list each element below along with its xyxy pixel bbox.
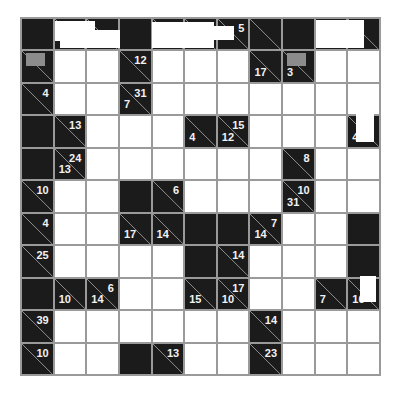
entry-cell[interactable] — [217, 310, 250, 342]
entry-cell[interactable] — [86, 50, 119, 82]
entry-cell[interactable] — [282, 213, 315, 245]
entry-cell[interactable] — [347, 310, 380, 342]
entry-cell[interactable] — [315, 50, 348, 82]
entry-cell[interactable] — [249, 245, 282, 277]
clue-cell: 17 — [249, 50, 282, 82]
down-sum: 17 — [254, 67, 266, 78]
entry-cell[interactable] — [347, 148, 380, 180]
clue-cell: 10 — [21, 180, 54, 212]
entry-cell[interactable] — [184, 83, 217, 115]
entry-cell[interactable] — [119, 278, 152, 310]
entry-cell[interactable] — [152, 50, 185, 82]
clue-cell: 614 — [86, 278, 119, 310]
down-sum: 15 — [189, 294, 201, 305]
down-sum: 13 — [59, 164, 71, 175]
across-sum: 12 — [134, 55, 146, 66]
entry-cell[interactable] — [249, 148, 282, 180]
clue-cell: 4 — [184, 115, 217, 147]
entry-cell[interactable] — [249, 115, 282, 147]
entry-cell[interactable] — [184, 148, 217, 180]
down-sum: 10 — [222, 294, 234, 305]
entry-cell[interactable] — [347, 50, 380, 82]
entry-cell[interactable] — [86, 213, 119, 245]
entry-cell[interactable] — [184, 180, 217, 212]
entry-cell[interactable] — [217, 148, 250, 180]
entry-cell[interactable] — [217, 83, 250, 115]
entry-cell[interactable] — [184, 310, 217, 342]
entry-cell[interactable] — [152, 148, 185, 180]
entry-cell[interactable] — [184, 50, 217, 82]
entry-cell[interactable] — [217, 343, 250, 375]
entry-cell[interactable] — [54, 83, 87, 115]
entry-cell[interactable] — [152, 310, 185, 342]
entry-cell[interactable] — [86, 343, 119, 375]
entry-cell[interactable] — [282, 83, 315, 115]
entry-cell[interactable] — [282, 278, 315, 310]
clue-cell: 13 — [54, 115, 87, 147]
entry-cell[interactable] — [86, 83, 119, 115]
entry-cell[interactable] — [86, 245, 119, 277]
entry-cell[interactable] — [54, 245, 87, 277]
entry-cell[interactable] — [347, 180, 380, 212]
clue-cell: 10 — [21, 343, 54, 375]
entry-cell[interactable] — [249, 83, 282, 115]
entry-cell[interactable] — [315, 343, 348, 375]
entry-cell[interactable] — [217, 50, 250, 82]
clue-cell: 1710 — [217, 278, 250, 310]
entry-cell[interactable] — [282, 245, 315, 277]
kakuro-board: 5121734317134151242413810610314171471425… — [20, 17, 381, 376]
entry-cell[interactable] — [249, 278, 282, 310]
clue-cell: 1512 — [217, 115, 250, 147]
entry-cell[interactable] — [152, 115, 185, 147]
across-sum: 8 — [304, 153, 310, 164]
entry-cell[interactable] — [152, 245, 185, 277]
down-sum: 14 — [157, 229, 169, 240]
entry-cell[interactable] — [315, 310, 348, 342]
down-sum: 3 — [287, 67, 293, 78]
clue-cell: 4 — [21, 83, 54, 115]
entry-cell[interactable] — [152, 83, 185, 115]
clue-cell: 14 — [217, 245, 250, 277]
entry-cell[interactable] — [152, 278, 185, 310]
entry-cell[interactable] — [217, 180, 250, 212]
entry-cell[interactable] — [249, 180, 282, 212]
clue-cell: 714 — [249, 213, 282, 245]
entry-cell[interactable] — [54, 180, 87, 212]
entry-cell[interactable] — [282, 115, 315, 147]
entry-cell[interactable] — [86, 310, 119, 342]
blocked-cell — [119, 343, 152, 375]
entry-cell[interactable] — [315, 213, 348, 245]
entry-cell[interactable] — [315, 148, 348, 180]
entry-cell[interactable] — [119, 310, 152, 342]
entry-cell[interactable] — [119, 245, 152, 277]
entry-cell[interactable] — [54, 343, 87, 375]
entry-cell[interactable] — [119, 115, 152, 147]
entry-cell[interactable] — [282, 310, 315, 342]
occlusion-patch — [360, 276, 376, 302]
selection-marker — [26, 53, 45, 66]
down-sum: 14 — [254, 229, 266, 240]
entry-cell[interactable] — [86, 180, 119, 212]
entry-cell[interactable] — [347, 83, 380, 115]
across-sum: 5 — [238, 23, 244, 34]
entry-cell[interactable] — [347, 343, 380, 375]
entry-cell[interactable] — [315, 83, 348, 115]
clue-cell: 1031 — [282, 180, 315, 212]
entry-cell[interactable] — [315, 245, 348, 277]
entry-cell[interactable] — [86, 115, 119, 147]
entry-cell[interactable] — [315, 115, 348, 147]
blocked-cell — [282, 18, 315, 50]
entry-cell[interactable] — [86, 148, 119, 180]
clue-cell: 4 — [21, 213, 54, 245]
entry-cell[interactable] — [184, 343, 217, 375]
entry-cell[interactable] — [54, 50, 87, 82]
entry-cell[interactable] — [54, 213, 87, 245]
entry-cell[interactable] — [119, 148, 152, 180]
entry-cell[interactable] — [282, 343, 315, 375]
clue-cell: 13 — [152, 343, 185, 375]
occlusion-patch — [60, 30, 120, 48]
down-sum: 14 — [91, 294, 103, 305]
entry-cell[interactable] — [315, 180, 348, 212]
entry-cell[interactable] — [54, 310, 87, 342]
clue-cell: 2413 — [54, 148, 87, 180]
